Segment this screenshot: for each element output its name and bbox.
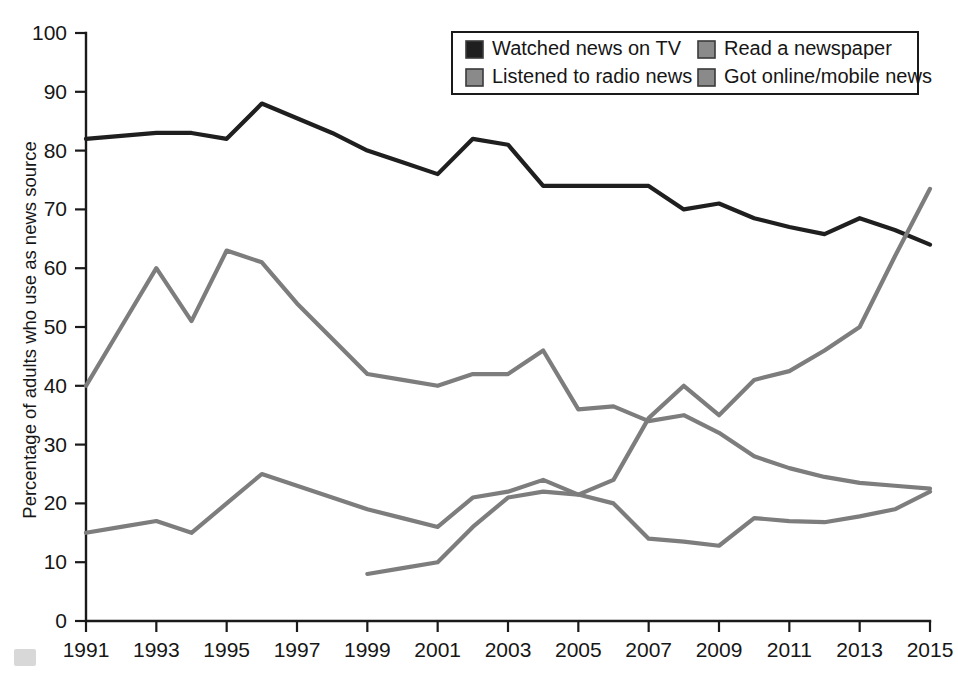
x-tick-label: 2011: [767, 638, 812, 661]
legend-swatch-radio: [466, 69, 483, 86]
x-tick-label: 1999: [344, 638, 391, 661]
y-tick-label: 70: [44, 197, 67, 220]
y-axis-ticks: 0102030405060708090100: [32, 21, 86, 632]
y-tick-label: 10: [44, 550, 67, 573]
page-corner-mark: [14, 649, 36, 666]
y-axis-title-text: Percentage of adults who use as news sou…: [19, 141, 40, 518]
x-tick-label: 1993: [133, 638, 180, 661]
line-chart: Percentage of adults who use as news sou…: [0, 0, 958, 676]
x-tick-label: 1991: [63, 638, 110, 661]
x-tick-label: 2013: [836, 638, 883, 661]
x-tick-label: 2003: [485, 638, 532, 661]
x-tick-label: 2001: [414, 638, 461, 661]
y-tick-label: 0: [55, 609, 67, 632]
y-tick-label: 100: [32, 21, 67, 44]
y-tick-label: 60: [44, 256, 67, 279]
y-tick-label: 50: [44, 315, 67, 338]
legend-label: Read a newspaper: [724, 37, 892, 59]
x-tick-label: 2005: [555, 638, 602, 661]
y-tick-label: 80: [44, 139, 67, 162]
legend-label: Watched news on TV: [492, 37, 682, 59]
x-tick-label: 2009: [696, 638, 743, 661]
legend-swatch-online: [698, 69, 715, 86]
x-tick-label: 1997: [274, 638, 321, 661]
legend-swatch-newspaper: [698, 41, 715, 58]
x-axis-ticks: 1991199319951997199920012003200520072009…: [63, 621, 954, 661]
y-tick-label: 90: [44, 80, 67, 103]
chart-container: Percentage of adults who use as news sou…: [0, 0, 958, 676]
y-tick-label: 20: [44, 491, 67, 514]
axis-lines: [86, 33, 930, 621]
y-tick-label: 40: [44, 374, 67, 397]
legend-label: Listened to radio news: [492, 65, 692, 87]
series-line-read-a-newspaper: [86, 251, 930, 489]
series-line-listened-to-radio-news: [86, 474, 930, 546]
chart-legend: Watched news on TVRead a newspaperListen…: [452, 32, 932, 94]
series-line-watched-news-on-tv: [86, 104, 930, 245]
x-tick-label: 2007: [625, 638, 672, 661]
x-tick-label: 2015: [907, 638, 954, 661]
y-axis-title: Percentage of adults who use as news sou…: [19, 141, 40, 518]
legend-label: Got online/mobile news: [724, 65, 932, 87]
legend-swatch-tv: [466, 41, 483, 58]
data-series-group: [86, 104, 930, 574]
y-tick-label: 30: [44, 433, 67, 456]
x-tick-label: 1995: [203, 638, 250, 661]
